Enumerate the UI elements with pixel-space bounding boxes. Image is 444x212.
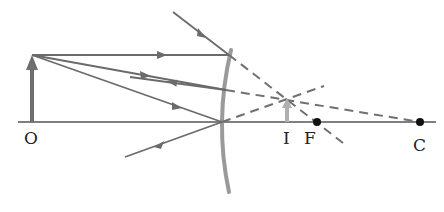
incident-rays bbox=[32, 55, 229, 122]
focus-label: F bbox=[304, 128, 316, 148]
focal-point bbox=[313, 118, 321, 126]
image-label: I bbox=[283, 128, 290, 148]
center-of-curvature bbox=[416, 118, 424, 126]
reflected-rays bbox=[125, 12, 229, 157]
object-arrow bbox=[26, 55, 38, 122]
center-label: C bbox=[413, 135, 426, 155]
ray-diagram: O I F C bbox=[0, 0, 444, 212]
virtual-ray-extensions bbox=[222, 55, 420, 143]
object-label: O bbox=[24, 128, 38, 148]
